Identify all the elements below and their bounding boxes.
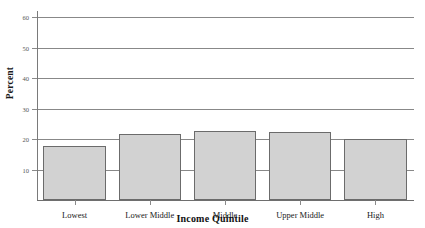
gridline-y xyxy=(38,48,414,49)
bar xyxy=(194,131,256,200)
gridline-y xyxy=(38,17,414,18)
y-tick-label: 30 xyxy=(23,105,30,112)
y-tick-mark xyxy=(32,170,37,171)
x-tick-mark xyxy=(375,200,376,205)
x-tick-mark xyxy=(225,200,226,205)
y-tick-label: 10 xyxy=(23,166,30,173)
y-tick-mark xyxy=(32,139,37,140)
gridline-y xyxy=(38,78,414,79)
y-tick-mark xyxy=(32,109,37,110)
bar xyxy=(344,139,406,200)
bar xyxy=(43,146,105,200)
gridline-y xyxy=(38,109,414,110)
bar xyxy=(269,132,331,200)
x-tick-mark xyxy=(300,200,301,205)
y-tick-mark xyxy=(32,48,37,49)
x-axis-title: Income Quintile xyxy=(0,213,425,224)
y-tick-label: 20 xyxy=(23,136,30,143)
y-axis-line xyxy=(37,11,38,201)
x-tick-mark xyxy=(75,200,76,205)
bar xyxy=(119,134,181,200)
y-axis-title: Percent xyxy=(5,51,15,115)
y-tick-label: 50 xyxy=(23,44,30,51)
x-tick-mark xyxy=(150,200,151,205)
bar-chart: Percent 102030405060LowestLower MiddleMi… xyxy=(0,0,425,228)
y-tick-mark xyxy=(32,78,37,79)
y-tick-label: 40 xyxy=(23,75,30,82)
chart-title-cropped xyxy=(37,0,413,4)
plot-area: 102030405060LowestLower MiddleMiddleUppe… xyxy=(37,11,413,200)
y-tick-label: 60 xyxy=(23,14,30,21)
y-tick-mark xyxy=(32,17,37,18)
